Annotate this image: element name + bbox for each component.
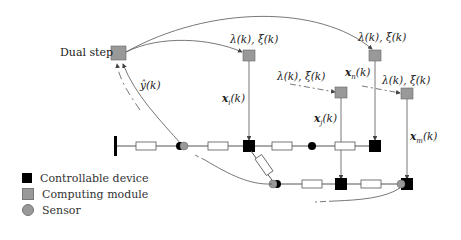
legend-label: Sensor [42,204,81,217]
controllable-device-i [243,140,255,152]
computing-module-m [401,88,413,99]
primal-label-n: xn(k) [345,66,370,81]
dual-label-m: λ(k), ξ(k) [382,74,430,86]
dual-label-j: λ(k), ξ(k) [277,70,325,82]
legend-item-computing-module: Computing module [22,186,149,202]
line-impedance [335,142,355,150]
computing-module-j [335,87,347,98]
controllable-device-j [335,178,347,190]
line-impedance [302,180,322,188]
controllable-device-n [369,140,381,152]
sensor-icon [22,204,34,216]
dual-label-n: λ(k), ξ(k) [358,31,406,43]
line-impedance [255,155,273,176]
computing-module-i [243,50,255,61]
sensor-icon [180,142,188,150]
controllable-device-icon [22,173,32,183]
computing-module-icon [22,188,34,200]
dual-to-i-curve [126,40,242,52]
legend-label: Controllable device [40,172,149,185]
feedback-dashed [117,64,140,110]
line-impedance [208,142,228,150]
sensor-dashed [195,155,205,160]
primal-label-m: xm(k) [410,130,437,145]
legend-label: Computing module [42,188,148,201]
grid-source-bar [114,136,117,156]
legend: Controllable device Computing module Sen… [22,170,149,218]
feedback-label: ŷ(k) [140,79,161,91]
sensor-icon [397,180,405,188]
line-impedance [136,142,156,150]
dual-label-i: λ(k), ξ(k) [230,33,278,45]
dual-to-j-dashed [290,84,335,92]
dual-to-m-dashed [362,86,400,93]
legend-item-controllable-device: Controllable device [22,170,149,186]
primal-label-i: xi(k) [222,92,245,107]
dual-step-label: Dual step [60,46,113,59]
line-impedance [361,180,381,188]
primal-label-j: xj(k) [314,112,337,127]
computing-module-dual [111,46,126,60]
line-impedance [272,142,292,150]
sensor-dashed [315,201,335,202]
feedback-curve [123,64,182,145]
bus-node [308,142,316,150]
legend-item-sensor: Sensor [22,202,149,218]
computing-module-n [369,50,381,61]
